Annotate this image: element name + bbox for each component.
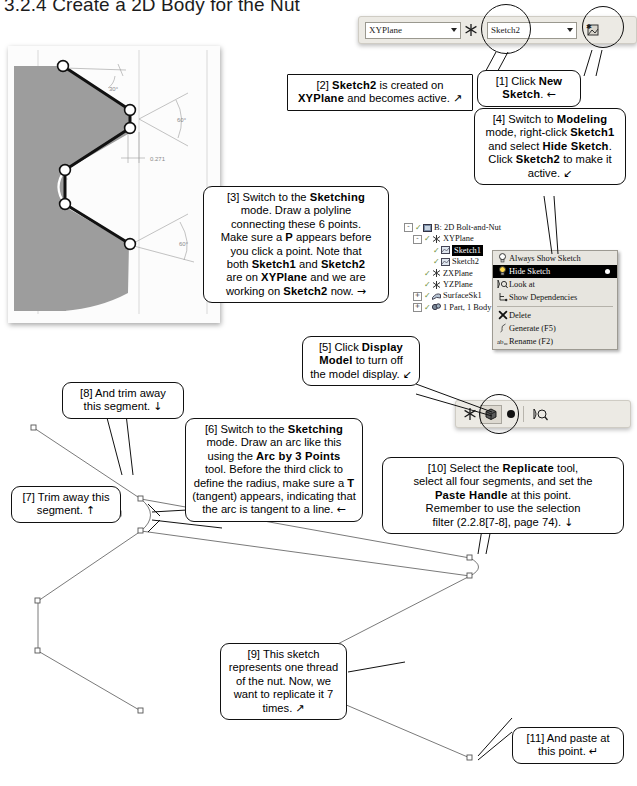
dependencies-icon (496, 292, 509, 304)
sketch-icon (441, 246, 450, 254)
plane-selector-value: XYPlane (369, 25, 402, 35)
callout-6-line-2: using the Arc by 3 Points (192, 450, 356, 463)
expand-icon[interactable]: + (413, 292, 422, 301)
callout-8: [8] And trim awaythis segment. ↓ (62, 382, 184, 419)
callout-1-line-1: Sketch. ← (484, 88, 574, 101)
callout-10-line-2: Paste Handle at this point. (389, 489, 617, 502)
callout-6-line-5: (tangent) appears, indicating that (192, 490, 356, 503)
callout-4-line-3: Click Sketch2 to make it (481, 153, 619, 166)
callout-11: [11] And paste atthis point. ↵ (512, 727, 624, 764)
callout-11-line-0: [11] And paste at (519, 732, 617, 745)
tree-item-label: 1 Part, 1 Body (443, 302, 491, 313)
callout-4-line-2: and select Hide Sketch. (481, 140, 619, 153)
callout-9-line-3: want to replicate it 7 (227, 688, 340, 701)
page-title: 3.2.4 Create a 2D Body for the Nut (4, 0, 424, 16)
delete-x-icon (496, 310, 509, 322)
collapse-icon[interactable]: - (413, 235, 422, 244)
callout-6-line-0: [6] Switch to the Sketching (192, 423, 356, 436)
bulb-on-icon (496, 266, 509, 278)
expand-icon[interactable]: + (413, 303, 422, 312)
chevron-down-icon[interactable] (451, 28, 457, 32)
callout-7-line-0: [7] Trim away this (18, 491, 114, 504)
svg-text:ab: ab (497, 338, 504, 346)
callout-6-line-1: mode. Draw an arc like this (192, 436, 356, 449)
plane-selector[interactable]: XYPlane (365, 22, 461, 39)
leader-line-callout-4 (500, 196, 600, 260)
callout-3-line-0: [3] Switch to the Sketching (210, 191, 382, 204)
chevron-down-icon[interactable] (567, 28, 573, 32)
selected-indicator (605, 269, 610, 274)
callout-2: [2] Sketch2 is created on XYPlane and be… (287, 74, 473, 111)
callout-3-line-4: you click a point. Note that (210, 245, 382, 258)
look-at-icon (496, 279, 509, 291)
tree-item-label: Sketch1 (452, 245, 483, 256)
generate-icon (496, 323, 509, 335)
highlight-ring-sketch-selector (481, 4, 531, 54)
callout-5-line-2: the model display. ↙ (309, 368, 413, 381)
plane-icon (432, 281, 441, 289)
callout-6-line-6: the arc is tangent to a line. ← (192, 503, 356, 516)
callout-4-line-0: [4] Switch to Modeling (481, 113, 619, 126)
tree-item-label: ZXPlane (443, 268, 473, 279)
menu-item-label: Generate (F5) (509, 324, 556, 333)
menu-item-hide-sketch[interactable]: Hide Sketch (493, 265, 617, 278)
checkmark-icon: ✓ (433, 245, 440, 256)
callout-1: [1] Click New Sketch. ← (477, 70, 581, 107)
callout-9-line-0: [9] This sketch (227, 648, 340, 661)
rename-icon: ab (496, 336, 509, 348)
callout-3-line-7: working on Sketch2 now. → (210, 285, 382, 298)
callout-9: [9] This sketchrepresents one thread of … (220, 643, 347, 720)
callout-3-line-3: Make sure a P appears before (210, 231, 382, 244)
callout-6-line-3: tool. Before the third click to (192, 463, 356, 476)
menu-item-label: Hide Sketch (509, 267, 550, 276)
callout-3-line-2: connecting these 6 points. (210, 218, 382, 231)
sketch-context-menu[interactable]: Always Show SketchHide SketchLook atShow… (492, 250, 618, 350)
callout-8-line-0: [8] And trim away (69, 387, 177, 400)
tree-item-label: YZPlane (443, 279, 473, 290)
cad-dim-60deg-top: 60° (177, 117, 187, 123)
menu-item-label: Rename (F2) (509, 337, 553, 346)
plane-icon (432, 235, 441, 243)
cad-dim-0271: 0.271 (150, 156, 166, 162)
menu-item-show-dependencies[interactable]: Show Dependencies (493, 291, 617, 304)
tree-item-label: B: 2D Bolt-and-Nut (434, 222, 501, 233)
menu-item-delete[interactable]: Delete (493, 309, 617, 322)
callout-6: [6] Switch to the Sketchingmode. Draw an… (185, 418, 363, 522)
menu-item-generate-f5[interactable]: Generate (F5) (493, 322, 617, 335)
callout-10-line-4: filter (2.2.8[7-8], page 74). ↓ (389, 516, 617, 529)
callout-1-line-0: [1] Click New (484, 75, 574, 88)
menu-item-rename-f2[interactable]: abRename (F2) (493, 335, 617, 348)
assembly-icon (423, 224, 432, 232)
callout-2-line-1: XYPlane and becomes active. ↗ (294, 92, 466, 105)
checkmark-icon: ✓ (424, 233, 431, 244)
plane-axis-icon[interactable] (461, 22, 481, 39)
cad-dim-30deg: 30° (109, 86, 119, 92)
callout-4-line-1: mode, right-click Sketch1 (481, 126, 619, 139)
menu-item-label: Show Dependencies (509, 293, 577, 302)
callout-4-line-4: active. ↙ (481, 167, 619, 180)
menu-item-look-at[interactable]: Look at (493, 278, 617, 291)
callout-3-line-5: both Sketch1 and Sketch2 (210, 258, 382, 271)
highlight-ring-new-sketch (582, 6, 624, 48)
callout-3: [3] Switch to the Sketchingmode. Draw a … (203, 186, 389, 303)
checkmark-icon: ✓ (424, 302, 431, 313)
tree-item-label: Sketch2 (452, 256, 479, 267)
callout-5-line-1: Model to turn off (309, 354, 413, 367)
callout-11-line-1: this point. ↵ (519, 745, 617, 758)
callout-2-line-0: [2] Sketch2 is created on (294, 79, 466, 92)
callout-10-line-3: Remember to use the selection (389, 502, 617, 515)
callout-10-line-0: [10] Select the Replicate tool, (389, 462, 617, 475)
checkmark-icon: ✓ (424, 268, 431, 279)
tree-item-label: SurfaceSk1 (443, 290, 482, 301)
surface-icon (432, 292, 441, 300)
collapse-icon[interactable]: - (404, 223, 413, 232)
checkmark-icon: ✓ (424, 279, 431, 290)
callout-9-line-2: of the nut. Now, we (227, 675, 340, 688)
callout-7-line-1: segment. ↑ (18, 504, 114, 517)
plane-icon (432, 269, 441, 277)
callout-9-line-1: represents one thread (227, 661, 340, 674)
checkmark-icon: ✓ (415, 222, 422, 233)
cad-thread-profile-image: 30° 60° 0.271 60° (8, 46, 220, 323)
callout-6-line-4: define the radius, make sure a T (192, 477, 356, 490)
callout-3-line-1: mode. Draw a polyline (210, 204, 382, 217)
